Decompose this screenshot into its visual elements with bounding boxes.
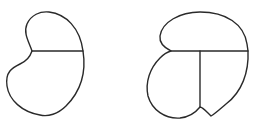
left-shape bbox=[7, 12, 84, 116]
diagram-canvas bbox=[0, 0, 255, 131]
right-shape bbox=[147, 12, 248, 118]
right-shape-outline bbox=[147, 12, 248, 118]
left-shape-outline bbox=[7, 12, 84, 116]
diagram-svg bbox=[0, 0, 255, 131]
